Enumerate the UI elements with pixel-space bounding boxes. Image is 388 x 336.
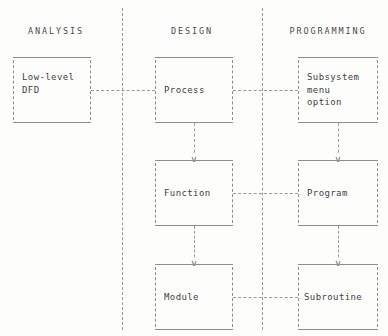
box-module: Module	[155, 264, 233, 330]
connector-module-to-subroutine	[233, 297, 298, 298]
box-low-level-dfd: Low-level DFD	[13, 57, 91, 123]
box-subsystem-menu-option: Subsystem menu option	[298, 57, 378, 123]
box-side-left	[298, 163, 299, 223]
box-side-left	[155, 163, 156, 223]
box-label-program: Program	[307, 187, 372, 200]
box-program: Program	[298, 160, 378, 226]
box-label-subroutine: Subroutine	[304, 291, 372, 304]
box-side-left	[155, 267, 156, 327]
box-side-right	[377, 60, 378, 120]
column-heading-analysis: ANALYSIS	[0, 26, 112, 36]
box-subroutine: Subroutine	[298, 264, 378, 330]
box-label-function: Function	[164, 187, 227, 200]
box-label-module: Module	[164, 291, 227, 304]
box-side-left	[298, 60, 299, 120]
box-function: Function	[155, 160, 233, 226]
connector-process-to-subsystem	[233, 90, 298, 91]
box-side-right	[377, 163, 378, 223]
box-side-left	[298, 267, 299, 327]
box-side-left	[13, 60, 14, 120]
box-side-right	[377, 267, 378, 327]
diagram-canvas: ANALYSIS DESIGN PROGRAMMING Low-level DF…	[0, 0, 388, 336]
column-separator-design-programming	[262, 8, 263, 330]
box-label-process: Process	[164, 84, 227, 97]
box-label-low-level-dfd: Low-level DFD	[22, 71, 85, 96]
connector-dfd-to-process	[91, 90, 155, 91]
column-heading-design: DESIGN	[132, 26, 252, 36]
column-separator-analysis-design	[122, 8, 123, 330]
box-side-left	[155, 60, 156, 120]
box-process: Process	[155, 57, 233, 123]
column-heading-programming: PROGRAMMING	[268, 26, 388, 36]
connector-function-to-program	[233, 193, 298, 194]
box-label-subsystem-menu-option: Subsystem menu option	[307, 71, 372, 109]
